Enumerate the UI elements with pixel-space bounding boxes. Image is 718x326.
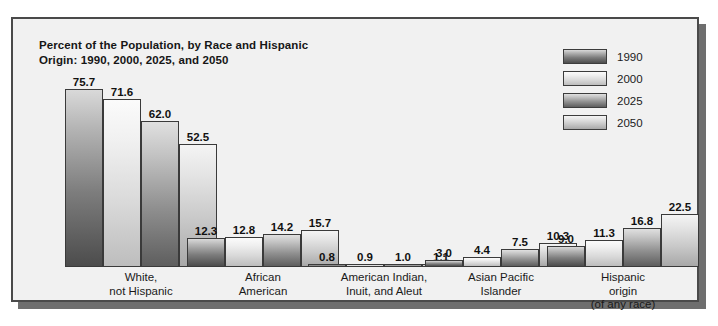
bar-value-label: 0.9	[357, 251, 373, 263]
bar-column: 22.5	[661, 79, 699, 267]
bar-value-label: 12.8	[233, 224, 255, 236]
bar-group: 9.011.316.822.5	[547, 79, 699, 267]
bar-column: 9.0	[547, 79, 585, 267]
chart-title: Percent of the Population, by Race and H…	[39, 38, 308, 68]
plot-area: 75.771.662.052.512.312.814.215.70.80.91.…	[27, 79, 677, 267]
bar-column: 0.9	[346, 79, 384, 267]
bar-value-label: 62.0	[149, 108, 171, 120]
bar-1990	[425, 260, 463, 267]
bar-2000	[346, 264, 384, 267]
legend-label-1990: 1990	[617, 51, 643, 63]
bar-column: 12.8	[225, 79, 263, 267]
bar-1990	[187, 238, 225, 267]
bar-2025	[501, 249, 539, 267]
bar-value-label: 9.0	[558, 233, 574, 245]
bar-1990	[547, 246, 585, 267]
bar-1990	[308, 264, 346, 267]
bar-column: 7.5	[501, 79, 539, 267]
bar-value-label: 3.0	[436, 247, 452, 259]
bar-2000	[225, 237, 263, 267]
bar-2000	[103, 99, 141, 267]
bar-2025	[384, 264, 422, 267]
bar-column: 3.0	[425, 79, 463, 267]
bar-column: 14.2	[263, 79, 301, 267]
bar-value-label: 0.8	[319, 251, 335, 263]
bar-value-label: 11.3	[593, 227, 615, 239]
bar-column: 62.0	[141, 79, 179, 267]
bar-value-label: 22.5	[669, 201, 691, 213]
bar-value-label: 75.7	[73, 76, 95, 88]
bar-value-label: 1.0	[395, 251, 411, 263]
bar-value-label: 12.3	[195, 225, 217, 237]
category-axis: White, not HispanicAfrican AmericanAmeri…	[27, 271, 677, 316]
bar-column: 16.8	[623, 79, 661, 267]
bar-2050	[661, 214, 699, 267]
legend-item: 1990	[563, 47, 675, 66]
legend-swatch-1990	[563, 49, 607, 64]
bar-value-label: 4.4	[474, 244, 490, 256]
bar-column: 1.0	[384, 79, 422, 267]
bar-2000	[463, 257, 501, 267]
bar-column: 75.7	[65, 79, 103, 267]
bar-value-label: 7.5	[512, 236, 528, 248]
bar-value-label: 14.2	[271, 221, 293, 233]
category-label: Hispanic origin (of any race)	[538, 271, 708, 312]
bar-column: 0.8	[308, 79, 346, 267]
bar-column: 12.3	[187, 79, 225, 267]
bar-value-label: 71.6	[111, 86, 133, 98]
bar-value-label: 16.8	[631, 215, 653, 227]
bar-2025	[141, 121, 179, 267]
bar-2025	[263, 234, 301, 267]
bar-2025	[623, 228, 661, 267]
bar-column: 11.3	[585, 79, 623, 267]
chart-frame: Percent of the Population, by Race and H…	[11, 17, 699, 302]
bar-2000	[585, 240, 623, 267]
bar-1990	[65, 89, 103, 267]
bar-column: 4.4	[463, 79, 501, 267]
bar-column: 71.6	[103, 79, 141, 267]
